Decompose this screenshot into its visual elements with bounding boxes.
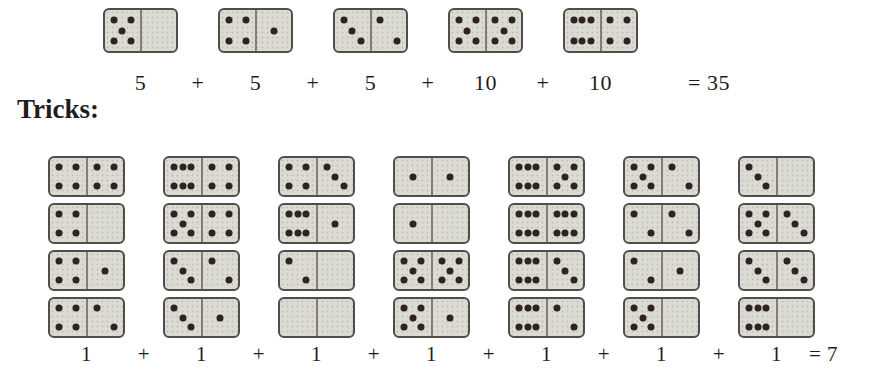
pip: [562, 211, 569, 218]
pip: [570, 323, 577, 330]
pip: [648, 182, 655, 189]
pip: [208, 229, 215, 236]
tricks-grid: [48, 156, 815, 338]
domino-half-left: [280, 252, 318, 289]
pip: [648, 229, 655, 236]
pip: [418, 323, 425, 330]
domino-half-right: [778, 205, 814, 242]
pip: [533, 164, 540, 171]
domino-5-5: [448, 8, 523, 53]
domino-half-right: [663, 252, 699, 289]
domino-3-2: [163, 250, 240, 291]
pip: [401, 305, 408, 312]
pip: [524, 164, 531, 171]
pip: [570, 164, 577, 171]
pip: [127, 37, 134, 44]
pip: [579, 17, 586, 24]
pip: [533, 305, 540, 312]
domino-half-right: [433, 205, 469, 242]
pip: [303, 276, 310, 283]
pip: [570, 17, 577, 24]
pip: [533, 258, 540, 265]
domino-half-right: [203, 205, 239, 242]
pip: [171, 211, 178, 218]
domino-half-right: [602, 10, 637, 51]
pip: [303, 229, 310, 236]
pip: [648, 164, 655, 171]
domino-half-right: [88, 158, 124, 195]
pip: [110, 323, 117, 330]
pip: [73, 229, 80, 236]
pip: [516, 164, 523, 171]
pip: [171, 229, 178, 236]
pip: [56, 258, 63, 265]
pip: [332, 173, 339, 180]
pip: [93, 164, 100, 171]
pip: [570, 182, 577, 189]
pip: [127, 17, 134, 24]
domino-half-left: [510, 252, 548, 289]
plus-operator: +: [178, 70, 218, 96]
pip: [639, 314, 646, 321]
domino-6-4: [163, 156, 240, 197]
domino-half-right: [257, 10, 292, 51]
pip: [119, 27, 126, 34]
pip: [294, 211, 301, 218]
pip: [763, 211, 770, 218]
pip: [418, 258, 425, 265]
pip: [56, 323, 63, 330]
plus-operator: +: [355, 342, 393, 367]
pip: [624, 17, 631, 24]
domino-5-1: [393, 297, 470, 338]
pip: [509, 37, 516, 44]
pip: [286, 164, 293, 171]
pip: [409, 314, 416, 321]
pip: [746, 164, 753, 171]
pip: [110, 37, 117, 44]
pip: [225, 182, 232, 189]
pip: [270, 27, 277, 34]
domino-half-left: [625, 158, 663, 195]
pip: [401, 258, 408, 265]
pip: [763, 182, 770, 189]
domino-half-left: [280, 158, 318, 195]
pip: [553, 229, 560, 236]
pip: [553, 305, 560, 312]
pip: [631, 323, 638, 330]
domino-half-left: [165, 158, 203, 195]
pip: [648, 276, 655, 283]
pip: [553, 211, 560, 218]
domino-half-left: [395, 158, 433, 195]
pip: [455, 258, 462, 265]
pip: [562, 267, 569, 274]
domino-half-right: [318, 205, 354, 242]
book-page: 5+5+5+10+10= 35 Tricks: 1+1+1+1+1+1+1= 7: [0, 0, 876, 383]
domino-half-right: [203, 252, 239, 289]
domino-half-left: [625, 205, 663, 242]
plus-operator: +: [408, 70, 448, 96]
counting-dominoes-row: [103, 8, 638, 53]
trick-column-4: [393, 156, 470, 338]
pip: [455, 276, 462, 283]
domino-half-left: [50, 299, 88, 336]
domino-2-0: [278, 250, 355, 291]
pip: [472, 17, 479, 24]
pip: [303, 164, 310, 171]
pip: [746, 229, 753, 236]
pip: [294, 229, 301, 236]
domino-half-left: [50, 158, 88, 195]
pip: [409, 220, 416, 227]
domino-half-left: [625, 299, 663, 336]
domino-6-5: [508, 156, 585, 197]
pip: [73, 211, 80, 218]
trick-column-7: [738, 156, 815, 338]
equation-term: 1: [163, 342, 240, 367]
domino-half-left: [565, 10, 602, 51]
pip: [763, 276, 770, 283]
domino-0-0: [278, 297, 355, 338]
pip: [516, 276, 523, 283]
pip: [377, 17, 384, 24]
pip: [533, 211, 540, 218]
tricks-equation: 1+1+1+1+1+1+1= 7: [48, 342, 838, 367]
pip: [225, 17, 232, 24]
